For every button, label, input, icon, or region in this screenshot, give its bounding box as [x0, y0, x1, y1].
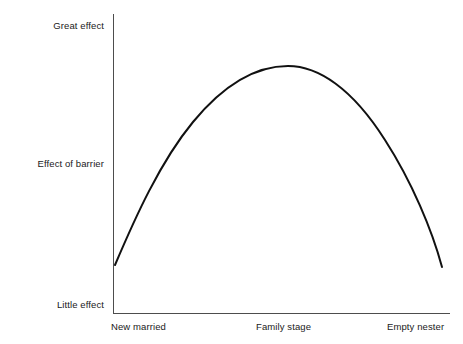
x-axis-line [113, 313, 450, 314]
y-tick-label-little-effect: Little effect [0, 299, 104, 310]
y-axis-line [113, 14, 114, 314]
y-tick-label-great-effect: Great effect [0, 20, 104, 31]
effect-of-barrier-curve [115, 66, 442, 267]
x-tick-label-empty-nester: Empty nester [387, 321, 444, 332]
x-axis-title-family-stage: Family stage [256, 321, 311, 332]
chart-figure: Great effect Effect of barrier Little ef… [0, 0, 463, 344]
x-tick-label-new-married: New married [111, 321, 166, 332]
y-axis-title-effect-of-barrier: Effect of barrier [0, 158, 104, 169]
curve-layer [0, 0, 463, 344]
